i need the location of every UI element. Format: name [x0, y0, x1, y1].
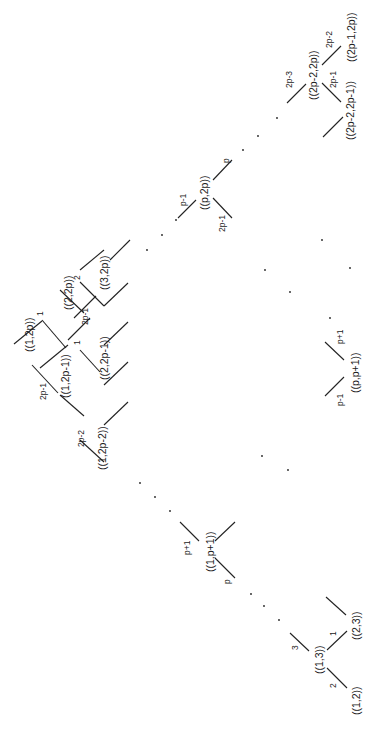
- node-2p-2-2p: ((2p-2,2p)): [307, 50, 319, 100]
- node-2p-1-2p: ((2p-1,2p)): [345, 12, 357, 62]
- node-1-2p-2: ((1,2p-2)): [96, 426, 108, 470]
- edge-label-2p-2: 2p-2: [76, 430, 86, 447]
- edge-label-2p-1: 2p-1: [38, 383, 48, 400]
- node-2-3: ((2,3)): [350, 611, 362, 640]
- edge-label-1c: 1: [72, 340, 82, 345]
- edge-label-p-1b: p-1: [335, 393, 345, 406]
- edge-label-2: 2: [72, 275, 82, 280]
- edge-label-1: 1: [328, 631, 338, 636]
- edge-label-p+1b: p+1: [182, 540, 192, 555]
- edge-label-p-b: p: [222, 579, 232, 584]
- edge-label-2p-3: 2p-3: [284, 71, 294, 88]
- dotted-path-lower: [139, 482, 171, 512]
- edge-label-1: 1: [35, 311, 45, 316]
- node-2p-2-2p-1: ((2p-2,2p-1)): [344, 81, 356, 140]
- node-1-2: ((1,2)): [350, 686, 362, 715]
- edge-label-p+1: p+1: [335, 329, 345, 344]
- node-group-1-3: ((1,3)) ((2,3)) ((1,2)) 3 1 2: [290, 597, 362, 715]
- edge-label-2p-1d: 2p-1: [328, 71, 338, 88]
- node-1-p1: ((1,p+1)): [204, 531, 216, 572]
- dotted-path-bottom: [250, 593, 280, 621]
- lattice-top-left-labels: ((1,2p)) ((1,2p-1)) ((1,2p-2)) ((2,2p)) …: [23, 256, 110, 470]
- edge-label-2p-1c: 2p-1: [217, 215, 227, 232]
- node-1-2p: ((1,2p)): [23, 318, 35, 352]
- edge-label-p: p: [221, 158, 231, 163]
- edge-label-2p-1b: 2p-1: [80, 308, 90, 325]
- edge-label-2p-2b: 2p-2: [324, 31, 334, 48]
- edge-label-p-1: p-1: [178, 193, 188, 206]
- edge-label-3: 3: [290, 645, 300, 650]
- node-p-p1: ((p,p+1)): [349, 352, 361, 393]
- node-3-2p: ((3,2p)): [98, 256, 110, 290]
- node-group-p-2p: ((p,2p)) p-1 p 2p-1: [178, 158, 232, 232]
- node-1-2p-1: ((1,2p-1)): [59, 354, 71, 398]
- node-1-3: ((1,3)): [313, 645, 325, 674]
- dotted-path-upper: [146, 219, 177, 251]
- lattice-diagram: ((1,2p)) ((1,2p-1)) ((1,2p-2)) ((2,2p)) …: [0, 0, 381, 732]
- dotted-path-right: [261, 239, 351, 471]
- node-group-p-p1: ((p,p+1)) p+1 p-1: [325, 329, 361, 406]
- node-2-2p-1: ((2,2p-1)): [98, 336, 110, 380]
- node-p-2p: ((p,2p)): [198, 176, 210, 210]
- edge-label-2: 2: [328, 683, 338, 688]
- node-group-2p-2-2p: ((2p-2,2p)) ((2p-2,2p-1)) ((2p-1,2p)) 2p…: [284, 12, 357, 140]
- node-group-1-p1: ((1,p+1)) p+1 p: [180, 522, 235, 584]
- dotted-path-top-right: [242, 117, 278, 151]
